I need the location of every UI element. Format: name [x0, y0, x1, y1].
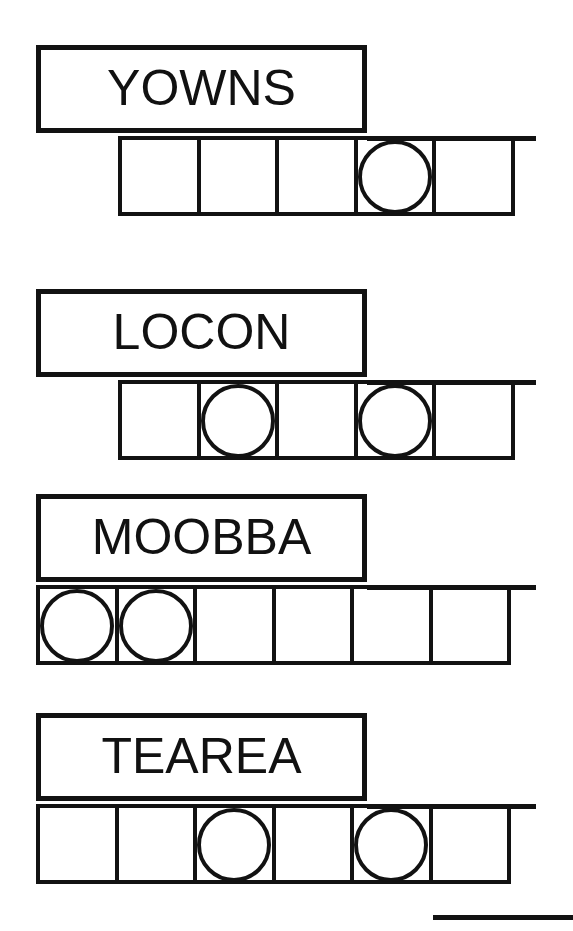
- word-label-box: LOCON: [36, 289, 367, 377]
- strip-top-edge: [367, 136, 536, 141]
- answer-cell[interactable]: [354, 136, 437, 216]
- answer-cell[interactable]: [118, 380, 201, 460]
- answer-cell[interactable]: [432, 380, 515, 460]
- circle-marker-icon: [201, 384, 275, 458]
- word-label-box: MOOBBA: [36, 494, 367, 582]
- circle-marker-icon: [358, 384, 432, 458]
- word-text: MOOBBA: [41, 512, 362, 562]
- circle-marker-icon: [40, 589, 114, 663]
- answer-cell[interactable]: [193, 804, 276, 884]
- answer-cell-strip: [118, 136, 515, 216]
- word-text: YOWNS: [41, 63, 362, 113]
- answer-cell[interactable]: [115, 585, 198, 665]
- answer-cell-strip: [118, 380, 515, 460]
- word-label-box: TEAREA: [36, 713, 367, 801]
- answer-cell[interactable]: [272, 804, 355, 884]
- answer-cell[interactable]: [197, 136, 280, 216]
- circle-marker-icon: [358, 140, 432, 214]
- answer-cell[interactable]: [115, 804, 198, 884]
- answer-cell[interactable]: [432, 136, 515, 216]
- word-text: TEAREA: [41, 731, 362, 781]
- circle-marker-icon: [119, 589, 193, 663]
- footer-rule: [433, 915, 573, 920]
- circle-marker-icon: [197, 808, 271, 882]
- answer-cell[interactable]: [275, 136, 358, 216]
- answer-cell[interactable]: [36, 585, 119, 665]
- word-text: LOCON: [41, 307, 362, 357]
- answer-cell[interactable]: [197, 380, 280, 460]
- answer-cell[interactable]: [429, 585, 512, 665]
- answer-cell[interactable]: [36, 804, 119, 884]
- strip-top-edge: [367, 585, 536, 590]
- word-label-box: YOWNS: [36, 45, 367, 133]
- strip-top-edge: [367, 804, 536, 809]
- answer-cell[interactable]: [350, 585, 433, 665]
- answer-cell[interactable]: [272, 585, 355, 665]
- answer-cell[interactable]: [275, 380, 358, 460]
- answer-cell[interactable]: [118, 136, 201, 216]
- answer-cell[interactable]: [193, 585, 276, 665]
- answer-cell[interactable]: [354, 380, 437, 460]
- answer-cell[interactable]: [350, 804, 433, 884]
- answer-cell-strip: [36, 804, 511, 884]
- strip-top-edge: [367, 380, 536, 385]
- worksheet-canvas: YOWNS LOCON MOOBBA: [0, 0, 573, 931]
- answer-cell-strip: [36, 585, 511, 665]
- circle-marker-icon: [354, 808, 428, 882]
- answer-cell[interactable]: [429, 804, 512, 884]
